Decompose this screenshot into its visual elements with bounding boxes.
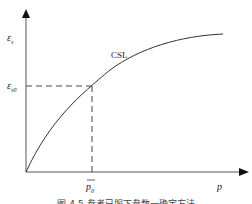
x-axis-label: p — [217, 182, 222, 192]
y-axis-arrow-icon — [22, 9, 30, 18]
y-axis-label: εv — [7, 33, 14, 45]
figure-caption: 图 4-5 参考已服下参数一确定方法 — [0, 197, 252, 204]
x-marker-label: p0 — [86, 182, 94, 194]
y-marker-label: εv0 — [7, 81, 17, 93]
diagram-canvas — [0, 0, 252, 204]
curve-label: CSL — [111, 51, 128, 60]
x-axis-arrow-icon — [239, 168, 249, 176]
